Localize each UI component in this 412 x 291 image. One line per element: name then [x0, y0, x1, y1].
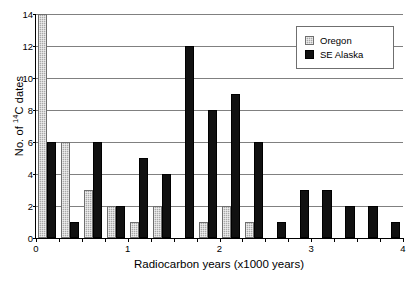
- bar-se-alaska-2.50-2.75: [277, 222, 286, 238]
- bar-se-alaska-3.00-3.25: [322, 190, 331, 238]
- bar-oregon-0.75-1.00: [107, 206, 116, 238]
- x-tick-label: 3: [309, 243, 314, 254]
- x-tick-mark: [128, 238, 129, 242]
- chart-legend: Oregon SE Alaska: [296, 26, 394, 69]
- bar-se-alaska-1.25-1.50: [162, 174, 171, 238]
- legend-swatch-se-alaska: [305, 50, 314, 59]
- bar-se-alaska-0.25-0.50: [70, 222, 79, 238]
- bar-se-alaska-0.75-1.00: [116, 206, 125, 238]
- bar-oregon-2.25-2.50: [245, 222, 254, 238]
- bar-se-alaska-3.50-3.75: [368, 206, 377, 238]
- y-tick-label: 10: [22, 73, 33, 84]
- bar-se-alaska-3.75-4.00: [391, 222, 400, 238]
- bar-oregon-1.75-2.00: [199, 222, 208, 238]
- legend-label-se-alaska: SE Alaska: [320, 49, 363, 60]
- x-tick-mark: [151, 238, 152, 242]
- x-tick-label: 1: [125, 243, 130, 254]
- x-tick-mark: [36, 238, 37, 242]
- y-tick-label: 4: [28, 169, 33, 180]
- legend-item-se-alaska: SE Alaska: [305, 47, 386, 61]
- bar-oregon-1.00-1.25: [130, 222, 139, 238]
- x-tick-mark: [265, 238, 266, 242]
- bar-oregon-0.25-0.50: [61, 142, 70, 238]
- x-tick-mark: [403, 238, 404, 242]
- bar-se-alaska-0.50-0.75: [93, 142, 102, 238]
- bar-se-alaska-2.25-2.50: [254, 142, 263, 238]
- y-tick-label: 2: [28, 201, 33, 212]
- y-axis-title-prefix: No. of: [13, 123, 25, 156]
- bar-se-alaska-1.50-1.75: [185, 46, 194, 238]
- x-axis-title: Radiocarbon years (x1000 years): [35, 258, 403, 270]
- x-tick-mark: [174, 238, 175, 242]
- bar-oregon-0.50-0.75: [84, 190, 93, 238]
- x-tick-mark: [380, 238, 381, 242]
- bar-oregon-1.25-1.50: [153, 206, 162, 238]
- x-tick-label: 4: [400, 243, 405, 254]
- x-tick-mark: [197, 238, 198, 242]
- x-tick-mark: [59, 238, 60, 242]
- x-tick-mark: [334, 238, 335, 242]
- x-tick-label: 0: [33, 243, 38, 254]
- bar-oregon-0.00-0.25: [38, 14, 47, 238]
- bar-se-alaska-2.00-2.25: [231, 94, 240, 238]
- legend-swatch-oregon: [305, 36, 314, 45]
- bar-se-alaska-2.75-3.00: [300, 190, 309, 238]
- x-tick-mark: [288, 238, 289, 242]
- x-tick-mark: [82, 238, 83, 242]
- legend-label-oregon: Oregon: [320, 35, 352, 46]
- x-tick-mark: [105, 238, 106, 242]
- y-tick-label: 0: [28, 233, 33, 244]
- y-tick-label: 6: [28, 137, 33, 148]
- bar-oregon-2.00-2.25: [222, 206, 231, 238]
- bar-se-alaska-1.75-2.00: [208, 110, 217, 238]
- x-tick-mark: [311, 238, 312, 242]
- y-axis-title: No. of 14C dates: [13, 31, 25, 201]
- x-tick-label: 2: [217, 243, 222, 254]
- x-tick-mark: [357, 238, 358, 242]
- bar-se-alaska-0.00-0.25: [47, 142, 56, 238]
- bar-se-alaska-3.25-3.50: [345, 206, 354, 238]
- y-tick-label: 8: [28, 105, 33, 116]
- x-tick-mark: [220, 238, 221, 242]
- legend-item-oregon: Oregon: [305, 33, 386, 47]
- radiocarbon-dates-bar-chart: No. of 14C dates 02468101214 01234 Radio…: [0, 0, 412, 291]
- y-axis-title-superscript: 14: [11, 114, 20, 123]
- y-tick-label: 14: [22, 9, 33, 20]
- x-tick-mark: [242, 238, 243, 242]
- y-tick-label: 12: [22, 41, 33, 52]
- bar-se-alaska-1.00-1.25: [139, 158, 148, 238]
